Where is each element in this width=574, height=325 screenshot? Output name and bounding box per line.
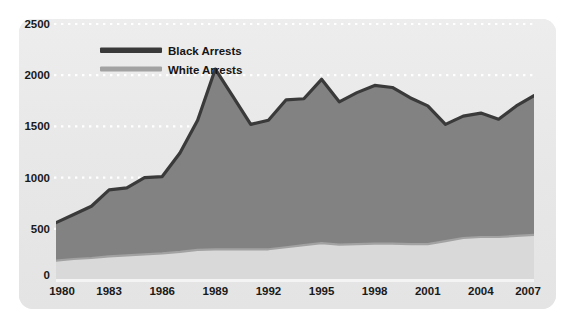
legend-swatch-0 [100,48,162,54]
x-tick-label-1995: 1995 [309,285,335,297]
y-tick-label-1000: 1000 [24,172,50,184]
y-tick-label-500: 500 [31,223,50,235]
y-tick-label-1500: 1500 [24,120,50,132]
series-areas-group [56,69,534,284]
legend-label-0: Black Arrests [168,45,242,57]
y-tick-label-0: 0 [44,269,50,281]
x-tick-label-1998: 1998 [362,285,388,297]
chart-plot-area: 05001000150020002500 1980198319861989199… [0,0,574,325]
chart-screenshot: 05001000150020002500 1980198319861989199… [0,0,574,325]
x-tick-label-2007: 2007 [515,285,541,297]
y-tick-label-2000: 2000 [24,69,50,81]
legend-label-1: White Arrests [168,64,242,76]
x-tick-label-2001: 2001 [415,285,441,297]
x-axis-labels-group: 1980198319861989199219951998200120042007 [49,285,541,297]
x-tick-label-1992: 1992 [256,285,282,297]
x-tick-label-1980: 1980 [49,285,75,297]
y-axis-labels-group: 05001000150020002500 [24,18,50,281]
y-tick-label-2500: 2500 [24,18,50,30]
x-tick-label-2004: 2004 [468,285,494,297]
legend: Black ArrestsWhite Arrests [100,45,242,76]
x-tick-label-1983: 1983 [96,285,122,297]
x-tick-label-1989: 1989 [203,285,229,297]
axis-baseline [56,279,534,282]
legend-swatch-1 [100,67,162,72]
x-tick-label-1986: 1986 [149,285,175,297]
area-chart-svg: 05001000150020002500 1980198319861989199… [0,0,574,325]
